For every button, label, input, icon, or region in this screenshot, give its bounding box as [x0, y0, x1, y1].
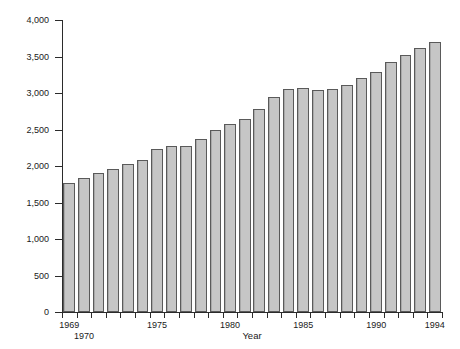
y-axis-title: Number (in thousands): [2, 0, 18, 16]
bar: [400, 55, 412, 312]
x-tick-mark: [223, 313, 224, 318]
y-tick-label: 3,000: [3, 88, 49, 98]
bar: [341, 85, 353, 312]
x-tick-mark: [208, 313, 209, 318]
bar: [253, 109, 265, 312]
x-tick-mark: [135, 313, 136, 318]
x-tick-mark: [354, 313, 355, 318]
y-tick-label: 2,500: [3, 125, 49, 135]
x-tick-mark: [398, 313, 399, 318]
bar: [107, 169, 119, 312]
bar: [180, 146, 192, 312]
bar: [268, 97, 280, 312]
x-tick-mark: [237, 313, 238, 318]
bar: [429, 42, 441, 312]
x-tick-mark: [150, 313, 151, 318]
x-tick-mark: [120, 313, 121, 318]
bar: [414, 48, 426, 312]
plot-area: [62, 20, 442, 312]
x-axis-title: Year: [62, 330, 442, 341]
y-tick-label: 0: [3, 307, 49, 317]
bar: [166, 146, 178, 312]
bar: [327, 89, 339, 312]
bar: [210, 130, 222, 312]
x-tick-mark: [340, 313, 341, 318]
bar: [195, 139, 207, 312]
bar: [283, 89, 295, 312]
x-tick-mark: [77, 313, 78, 318]
x-tick-mark: [310, 313, 311, 318]
bar: [93, 173, 105, 312]
bar: [385, 62, 397, 312]
bar: [122, 164, 134, 312]
x-tick-mark: [267, 313, 268, 318]
x-tick-mark: [252, 313, 253, 318]
y-tick-label: 1,000: [3, 234, 49, 244]
x-tick-mark: [62, 313, 63, 318]
x-tick-mark: [179, 313, 180, 318]
bar-chart-figure: Number (in thousands) 05001,0001,5002,00…: [0, 0, 460, 349]
y-tick-label: 4,000: [3, 15, 49, 25]
bar: [78, 178, 90, 312]
bar: [312, 90, 324, 312]
x-tick-label: 1969: [59, 320, 79, 330]
x-tick-mark: [325, 313, 326, 318]
x-tick-mark: [194, 313, 195, 318]
bar: [297, 88, 309, 312]
bar: [151, 149, 163, 312]
bar: [224, 124, 236, 312]
x-tick-label: 1985: [293, 320, 313, 330]
x-tick-mark: [106, 313, 107, 318]
x-tick-label: 1975: [147, 320, 167, 330]
bar: [356, 78, 368, 312]
x-tick-label: 1980: [220, 320, 240, 330]
x-tick-mark: [281, 313, 282, 318]
x-tick-mark: [369, 313, 370, 318]
bar: [370, 72, 382, 312]
x-tick-label: 1990: [366, 320, 386, 330]
bar: [239, 119, 251, 312]
x-tick-label: 1994: [425, 320, 445, 330]
x-tick-mark: [164, 313, 165, 318]
bar: [137, 160, 149, 312]
bar: [63, 183, 75, 312]
y-tick-label: 3,500: [3, 52, 49, 62]
y-tick-label: 2,000: [3, 161, 49, 171]
x-tick-mark: [442, 313, 443, 318]
x-tick-mark: [427, 313, 428, 318]
x-tick-mark: [413, 313, 414, 318]
y-tick-label: 1,500: [3, 198, 49, 208]
x-tick-mark: [91, 313, 92, 318]
x-tick-mark: [384, 313, 385, 318]
y-tick-label: 500: [3, 271, 49, 281]
x-tick-mark: [296, 313, 297, 318]
